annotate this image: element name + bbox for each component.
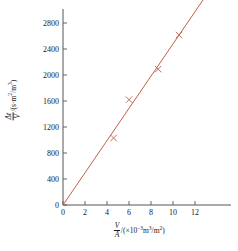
x-axis-unit-prefix: /(×10 [121, 226, 137, 235]
y-tick-label: 2800 [43, 19, 59, 28]
y-axis-unit-div: /m [8, 85, 17, 93]
y-axis-label-fraction: Δt V [5, 112, 22, 121]
y-axis-unit-suffix: ) [8, 80, 17, 83]
y-axis-label: Δt V /(s·m2/m3) [5, 61, 22, 139]
x-tick-label: 10 [169, 208, 177, 217]
y-tick-label: 800 [47, 149, 59, 158]
x-axis-label-unit: /(×10−3m3/m2) [121, 227, 165, 235]
y-tick-label: 1200 [43, 123, 59, 132]
x-axis-label-denominator: A [114, 231, 121, 239]
x-axis-label-fraction: V A [114, 222, 121, 239]
x-tick-label: 4 [105, 208, 109, 217]
y-tick-label: 1600 [43, 97, 59, 106]
fit-line-segment [63, 0, 203, 205]
y-axis-unit-exp2: 3 [7, 82, 13, 85]
x-tick-label: 2 [83, 208, 87, 217]
y-tick-label: 0 [55, 201, 59, 210]
y-axis-unit-prefix: /(s·m [8, 96, 17, 112]
data-points-group [110, 32, 182, 141]
x-tick-label: 0 [61, 208, 65, 217]
x-axis-unit-div: /m [152, 226, 160, 235]
x-axis-ticks: 024681012 [61, 201, 199, 217]
y-axis-label-unit: /(s·m2/m3) [9, 80, 17, 112]
fit-line [63, 0, 203, 205]
y-tick-label: 400 [47, 175, 59, 184]
x-tick-label: 6 [127, 208, 131, 217]
x-axis-unit-suffix: ) [162, 226, 165, 235]
data-point-marker [126, 97, 132, 103]
x-axis-label: V A /(×10−3m3/m2) [84, 222, 194, 239]
data-point-marker [110, 135, 116, 141]
chart-container: 040080012001600200024002800 024681012 Δt… [0, 0, 238, 251]
x-tick-label: 8 [149, 208, 153, 217]
x-tick-label: 12 [191, 208, 199, 217]
data-point-marker [176, 32, 182, 38]
y-tick-label: 2400 [43, 45, 59, 54]
axes-group [63, 9, 231, 205]
chart-plot-area: 040080012001600200024002800 024681012 [0, 0, 238, 251]
y-axis-label-denominator: V [14, 112, 22, 121]
y-tick-label: 2000 [43, 71, 59, 80]
